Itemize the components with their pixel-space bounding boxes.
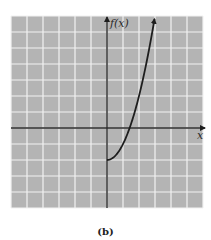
y-axis-label: f(x) bbox=[109, 17, 129, 30]
x-axis-label: x bbox=[197, 129, 204, 142]
figure-caption: (b) bbox=[0, 226, 211, 237]
function-graph: f(x) x bbox=[0, 0, 211, 240]
